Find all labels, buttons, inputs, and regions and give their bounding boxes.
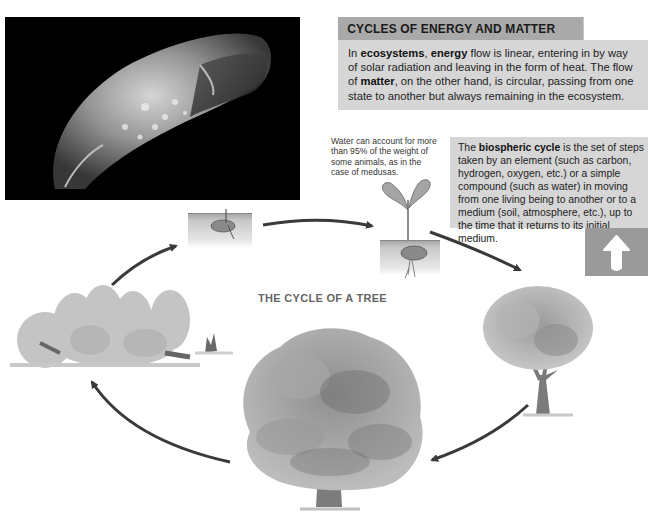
arrow-decay-to-seed [112,246,176,285]
arrow-mature-to-decay [92,382,230,462]
cycle-arrows [0,0,650,523]
arrow-seedling-to-young-tree [430,232,520,270]
arrow-seed-to-seedling [263,220,372,226]
arrow-young-to-mature [432,405,528,460]
